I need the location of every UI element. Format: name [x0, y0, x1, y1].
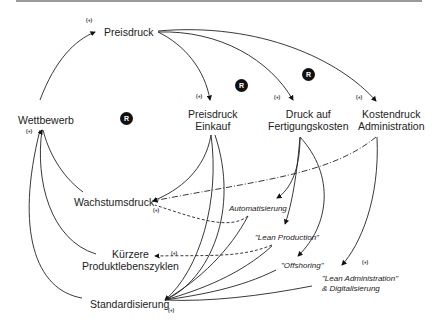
node-druck-fertigungskosten: Druck auf Fertigungskosten [268, 108, 349, 132]
node-preisdruck-einkauf-line2: Einkauf [188, 120, 238, 132]
lever-lean-admin-line1: "Lean Administration" [322, 274, 398, 284]
polarity-sign: (+) [362, 259, 368, 265]
node-kuerzere-line1: Kürzere [82, 248, 179, 260]
polarity-sign: (+) [153, 207, 159, 213]
polarity-sign: (+) [86, 17, 92, 23]
node-wettbewerb: Wettbewerb [18, 114, 74, 126]
lever-lean-admin-line2: & Digitalisierung [322, 284, 398, 294]
node-preisdruck-einkauf: Preisdruck Einkauf [188, 108, 238, 132]
node-druck-fertigungskosten-line1: Druck auf [268, 108, 349, 120]
node-druck-fertigungskosten-line2: Fertigungskosten [268, 120, 349, 132]
node-kostendruck-administration-line1: Kostendruck [358, 108, 425, 120]
polarity-sign: (+) [171, 250, 177, 256]
lever-lean-production: "Lean Production" [255, 233, 319, 243]
polarity-sign: (+) [168, 307, 174, 313]
node-preisdruck-einkauf-line1: Preisdruck [188, 108, 238, 120]
reinforcing-loop-badge: R [235, 79, 248, 92]
polarity-sign: (+) [356, 94, 362, 100]
lever-offshoring: "Offshoring" [281, 261, 324, 271]
polarity-sign: (+) [196, 93, 202, 99]
node-kostendruck-administration: Kostendruck Administration [358, 108, 425, 132]
node-standardisierung: Standardisierung [90, 298, 169, 310]
polarity-sign: (+) [274, 94, 280, 100]
node-preisdruck: Preisdruck [104, 26, 154, 38]
node-kuerzere-line2: Produktlebenszyklen [82, 260, 179, 272]
node-kostendruck-administration-line2: Administration [358, 120, 425, 132]
reinforcing-loop-badge: R [302, 68, 315, 81]
lever-automatisierung: Automatisierung [229, 204, 287, 214]
node-wachstumsdruck: Wachstumsdruck [74, 196, 154, 208]
reinforcing-loop-badge: R [120, 112, 133, 125]
polarity-sign: (+) [26, 128, 32, 134]
node-kuerzere-produktlebenszyklen: Kürzere Produktlebenszyklen [82, 248, 179, 272]
lever-lean-administration: "Lean Administration" & Digitalisierung [322, 274, 398, 294]
